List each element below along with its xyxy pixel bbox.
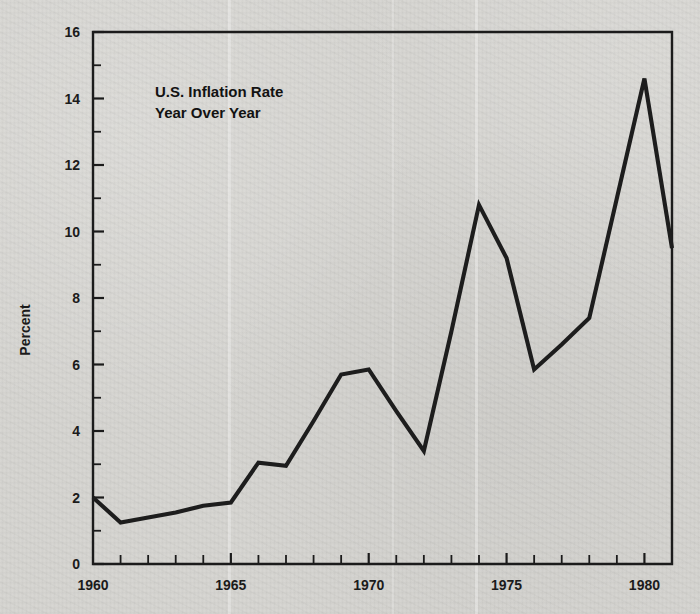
y-tick-label: 16 — [64, 24, 80, 40]
y-axis-tick-labels: 0246810121416 — [64, 24, 80, 572]
x-axis-tick-labels: 19601965197019751980 — [77, 577, 660, 593]
chart-title-line-2: Year Over Year — [155, 104, 261, 121]
inflation-line-chart: 0246810121416 19601965197019751980 Perce… — [0, 0, 700, 614]
y-tick-label: 0 — [72, 556, 80, 572]
chart-page: 0246810121416 19601965197019751980 Perce… — [0, 0, 700, 614]
y-tick-label: 14 — [64, 91, 80, 107]
y-axis-title: Percent — [17, 304, 33, 356]
x-tick-label: 1960 — [77, 577, 108, 593]
y-axis-ticks — [93, 32, 104, 564]
y-tick-label: 6 — [72, 357, 80, 373]
x-tick-label: 1965 — [215, 577, 246, 593]
y-tick-label: 10 — [64, 224, 80, 240]
inflation-rate-line — [93, 79, 672, 523]
x-tick-label: 1980 — [629, 577, 660, 593]
x-axis-ticks — [121, 553, 645, 564]
y-tick-label: 8 — [72, 290, 80, 306]
y-tick-label: 4 — [72, 423, 80, 439]
x-tick-label: 1970 — [353, 577, 384, 593]
y-tick-label: 12 — [64, 157, 80, 173]
y-tick-label: 2 — [72, 490, 80, 506]
chart-title-line-1: U.S. Inflation Rate — [155, 83, 283, 100]
x-tick-label: 1975 — [491, 577, 522, 593]
